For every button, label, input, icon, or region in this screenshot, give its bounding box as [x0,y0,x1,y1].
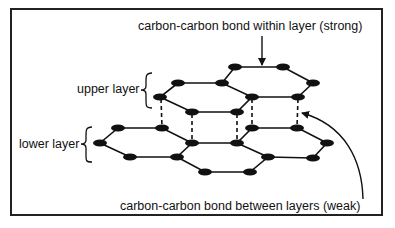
between-layers-label: carbon-carbon bond between layers (weak) [120,199,360,213]
lower-layer-bonds [100,128,327,172]
upper-layer-bonds [160,67,313,112]
lower-layer-atoms [93,125,334,176]
upper-layer-label: upper layer [77,82,140,96]
lower-layer-label: lower layer [19,137,79,151]
graphite-diagram [0,0,395,228]
interlayer-weak-bonds [161,99,298,142]
within-layer-label: carbon-carbon bond within layer (strong) [138,19,362,33]
lower-layer-brace-icon [81,127,92,162]
upper-layer-brace-icon [141,73,152,108]
